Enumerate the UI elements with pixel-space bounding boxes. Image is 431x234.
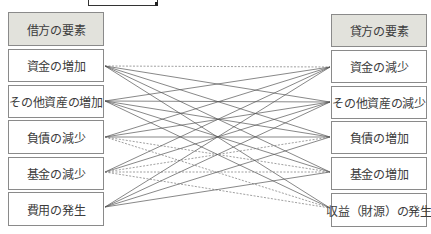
left-item-expense-occurrence: 費用の発生 [8,192,104,226]
connection-line [105,67,330,101]
left-item-cash-increase: 資金の増加 [8,49,104,82]
left-item-liabilities-decrease: 負債の減少 [8,120,104,154]
left-item-fund-decrease: 基金の減少 [8,157,104,190]
right-item-liabilities-increase: 負債の増加 [331,121,427,154]
left-item-other-assets-increase: その他資産の増加 [8,85,104,118]
left-header: 借方の要素 [8,12,104,46]
right-item-revenue-occurrence: 収益（財源）の発生 [331,193,427,227]
right-item-cash-decrease: 資金の減少 [331,50,427,83]
connection-line [105,102,330,207]
right-item-fund-increase: 基金の増加 [331,157,427,190]
right-header: 貸方の要素 [331,14,427,47]
right-item-other-assets-decrease: その他資産の減少 [331,86,427,119]
connection-line [105,172,330,207]
connection-line [105,66,330,67]
